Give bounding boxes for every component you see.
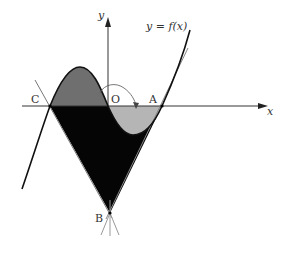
line-b-right [110, 213, 119, 235]
point-a-label: A [148, 93, 158, 106]
point-c [48, 104, 51, 107]
point-b [108, 211, 111, 214]
curve-label: y = f(x) [145, 20, 187, 33]
point-b-label: B [95, 212, 103, 225]
point-c-label: C [31, 93, 39, 106]
y-axis-arrow-icon [105, 17, 111, 27]
diagram-canvas: y x y = f(x) C O A B [0, 0, 287, 253]
point-o-label: O [111, 93, 120, 106]
y-axis-label: y [97, 9, 105, 22]
point-a [160, 104, 163, 107]
x-axis-label: x [267, 105, 274, 118]
